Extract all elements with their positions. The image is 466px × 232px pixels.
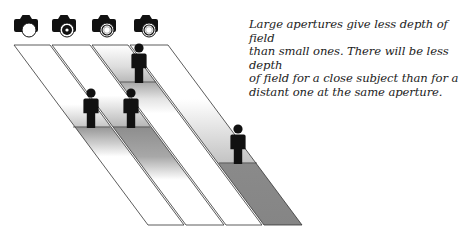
camera-icon-wide-aperture [14, 15, 38, 37]
caption-text: Large apertures give less depth of field… [249, 18, 464, 99]
caption-line: of field for a close subject than for a [249, 72, 464, 86]
caption-line: Large apertures give less depth of field [249, 18, 464, 45]
caption-line: distant one at the same aperture. [249, 86, 464, 100]
camera-icon-medium-aperture-2 [134, 15, 158, 37]
caption-line: than small ones. There will be less dept… [249, 45, 464, 72]
camera-icon-medium-aperture [92, 15, 116, 37]
camera-icon-small-aperture [52, 15, 76, 37]
